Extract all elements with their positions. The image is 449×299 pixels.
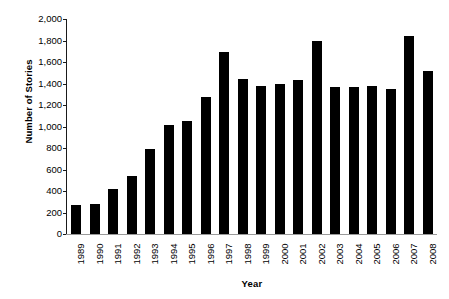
bar[interactable] xyxy=(71,205,81,234)
x-axis-tick-label: 1998 xyxy=(243,243,253,264)
x-tick-slot: 1992 xyxy=(123,234,142,276)
bar[interactable] xyxy=(238,79,248,234)
y-axis-tick-label: 1,800 xyxy=(27,36,62,46)
x-axis-tick-label: 2001 xyxy=(298,243,308,264)
bar-slot xyxy=(252,19,271,234)
x-tick-slot: 1989 xyxy=(67,234,86,276)
bar-slot xyxy=(197,19,216,234)
bar-slot xyxy=(215,19,234,234)
y-axis-tick-label: 600 xyxy=(27,165,62,175)
x-axis-tick-label: 1990 xyxy=(95,243,105,264)
bar[interactable] xyxy=(349,87,359,234)
x-axis-tick-label: 2000 xyxy=(280,243,290,264)
bar[interactable] xyxy=(164,125,174,234)
y-axis-tick-mark xyxy=(63,41,66,42)
bar[interactable] xyxy=(256,86,266,234)
x-axis-tick-label: 1989 xyxy=(76,243,86,264)
bar-slot xyxy=(419,19,438,234)
bar[interactable] xyxy=(423,71,433,234)
bar[interactable] xyxy=(386,89,396,234)
bar-chart-figure: Number of Stories 2,0001,8001,6001,4001,… xyxy=(0,0,449,299)
x-tick-slot: 1990 xyxy=(86,234,105,276)
bar-slot xyxy=(382,19,401,234)
x-axis-tick-label: 2008 xyxy=(428,243,438,264)
x-tick-slot: 1993 xyxy=(141,234,160,276)
y-axis-tick-label: 1,200 xyxy=(27,100,62,110)
x-tick-slot: 2008 xyxy=(419,234,438,276)
x-axis-tick-label: 2005 xyxy=(372,243,382,264)
y-axis-tick-labels: 2,0001,8001,6001,4001,2001,0008006004002… xyxy=(27,0,62,299)
y-axis-tick-label: 400 xyxy=(27,186,62,196)
x-tick-slot: 1996 xyxy=(197,234,216,276)
x-tick-slot: 1999 xyxy=(252,234,271,276)
y-axis-tick-label: 800 xyxy=(27,143,62,153)
x-axis-tick-label: 1993 xyxy=(150,243,160,264)
y-axis-tick-mark xyxy=(63,170,66,171)
bar[interactable] xyxy=(201,97,211,234)
x-axis-tick-label: 1997 xyxy=(224,243,234,264)
x-tick-slot: 2003 xyxy=(326,234,345,276)
y-axis-tick-mark xyxy=(63,234,66,235)
x-tick-slot: 2007 xyxy=(400,234,419,276)
x-tick-slot: 2002 xyxy=(308,234,327,276)
x-tick-slot: 2001 xyxy=(289,234,308,276)
bar[interactable] xyxy=(293,80,303,234)
y-axis-tick-label: 1,000 xyxy=(27,122,62,132)
y-axis-tick-label: 200 xyxy=(27,208,62,218)
bar-slot xyxy=(345,19,364,234)
bar-slot xyxy=(104,19,123,234)
plot-area xyxy=(67,19,437,234)
x-axis-title: Year xyxy=(67,278,437,289)
y-axis-tick-label: 2,000 xyxy=(27,14,62,24)
bar[interactable] xyxy=(127,176,137,234)
x-tick-slot: 2006 xyxy=(382,234,401,276)
x-tick-slot: 1997 xyxy=(215,234,234,276)
bar[interactable] xyxy=(145,149,155,234)
x-tick-slot: 1991 xyxy=(104,234,123,276)
x-axis-tick-label: 2007 xyxy=(409,243,419,264)
bar[interactable] xyxy=(312,41,322,235)
y-axis-tick-mark xyxy=(63,148,66,149)
x-tick-slot: 2000 xyxy=(271,234,290,276)
bar[interactable] xyxy=(275,84,285,234)
x-axis-tick-label: 2004 xyxy=(354,243,364,264)
bar-slot xyxy=(308,19,327,234)
bar-slot xyxy=(289,19,308,234)
bar[interactable] xyxy=(404,36,414,234)
x-tick-slot: 1994 xyxy=(160,234,179,276)
x-axis-tick-label: 2003 xyxy=(335,243,345,264)
x-axis-tick-label: 1991 xyxy=(113,243,123,264)
bar[interactable] xyxy=(367,86,377,234)
x-axis-tick-label: 1996 xyxy=(206,243,216,264)
bar-slot xyxy=(400,19,419,234)
x-axis-tick-labels: 1989199019911992199319941995199619971998… xyxy=(67,234,437,276)
x-tick-slot: 1995 xyxy=(178,234,197,276)
bar-slot xyxy=(234,19,253,234)
x-tick-slot: 1998 xyxy=(234,234,253,276)
bar-slot xyxy=(326,19,345,234)
y-axis-tick-label: 0 xyxy=(27,229,62,239)
bar[interactable] xyxy=(330,87,340,234)
bar-slot xyxy=(141,19,160,234)
x-axis-tick-label: 1999 xyxy=(261,243,271,264)
bar-slot xyxy=(86,19,105,234)
bar[interactable] xyxy=(219,52,229,234)
y-axis-tick-label: 1,400 xyxy=(27,79,62,89)
y-axis-tick-mark xyxy=(63,62,66,63)
bar[interactable] xyxy=(182,121,192,234)
y-axis-tick-mark xyxy=(63,105,66,106)
y-axis-tick-mark xyxy=(63,191,66,192)
bar-slot xyxy=(178,19,197,234)
x-axis-tick-label: 2006 xyxy=(391,243,401,264)
y-axis-tick-mark xyxy=(63,19,66,20)
y-axis-tick-mark xyxy=(63,127,66,128)
bar[interactable] xyxy=(90,204,100,234)
x-tick-slot: 2005 xyxy=(363,234,382,276)
bar-slot xyxy=(67,19,86,234)
x-tick-slot: 2004 xyxy=(345,234,364,276)
x-axis-tick-label: 1992 xyxy=(132,243,142,264)
bar-slot xyxy=(160,19,179,234)
bar-slot xyxy=(363,19,382,234)
bar[interactable] xyxy=(108,189,118,234)
bar-slot xyxy=(271,19,290,234)
